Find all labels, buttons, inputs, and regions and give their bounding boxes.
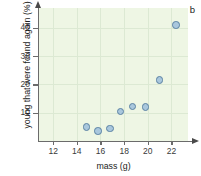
panel-letter-label: b [190,4,195,15]
data-point-marker [172,21,180,29]
gridline-horizontal [39,28,188,29]
x-axis-tick-label: 12 [43,147,63,156]
x-axis-tick [124,141,125,145]
y-axis-tick-label: 10 [8,108,30,117]
data-point-marker [156,76,164,84]
data-point-marker [83,123,91,131]
y-axis-arrow-icon [35,1,41,8]
data-point-marker [142,103,150,111]
y-axis-line [38,6,39,142]
x-axis-tick [53,141,54,145]
x-axis-tick-label: 22 [161,147,181,156]
gridline-horizontal [39,56,188,57]
x-axis-line [38,141,193,142]
data-point-marker [106,125,114,133]
y-axis-tick [33,113,38,114]
plot-panel [39,8,188,142]
scatter-chart-figure: young that were found again (%) mass (g)… [0,0,201,176]
y-axis-tick [33,56,38,57]
x-axis-tick-label: 20 [138,147,158,156]
x-axis-tick [148,141,149,145]
x-axis-tick-label: 14 [67,147,87,156]
y-axis-tick-label: 30 [8,52,30,61]
data-point-marker [129,103,137,111]
gridline-horizontal [39,113,188,114]
data-point-marker [94,127,102,135]
x-axis-tick [77,141,78,145]
x-axis-tick [171,141,172,145]
x-axis-tick-label: 18 [114,147,134,156]
gridline-horizontal [39,84,188,85]
y-axis-tick-label: 20 [8,80,30,89]
y-axis-tick [33,84,38,85]
x-axis-label: mass (g) [39,161,188,171]
x-axis-arrow-icon [192,138,199,144]
x-axis-tick [100,141,101,145]
x-axis-tick-label: 16 [90,147,110,156]
y-axis-tick-label: 40 [8,23,30,32]
y-axis-tick [33,28,38,29]
